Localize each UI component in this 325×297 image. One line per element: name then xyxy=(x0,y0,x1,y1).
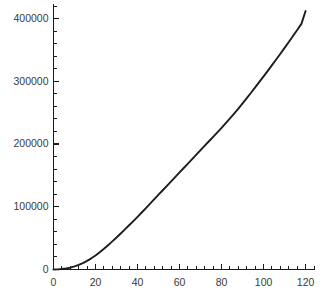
x-axis-tick-label: 120 xyxy=(297,276,315,288)
x-axis-tick-label: 60 xyxy=(174,276,186,288)
line-chart: 0100000200000300000400000020406080100120 xyxy=(0,0,325,297)
x-axis-tick-label: 40 xyxy=(132,276,144,288)
x-axis-tick-label: 80 xyxy=(216,276,228,288)
y-axis-tick-label: 0 xyxy=(43,263,49,275)
y-axis-tick-label: 200000 xyxy=(13,137,48,149)
x-axis-tick-label: 20 xyxy=(90,276,102,288)
y-axis-tick-label: 100000 xyxy=(13,200,48,212)
x-axis-tick-label: 100 xyxy=(255,276,273,288)
x-axis-tick-label: 0 xyxy=(51,276,57,288)
y-axis-tick-label: 400000 xyxy=(13,12,48,24)
y-axis-tick-label: 300000 xyxy=(13,75,48,87)
chart-container: 0100000200000300000400000020406080100120 xyxy=(0,0,325,297)
data-series-line xyxy=(54,11,306,269)
